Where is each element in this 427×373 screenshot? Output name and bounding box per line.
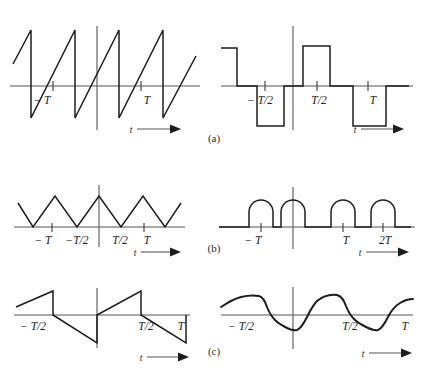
t-arrow-head (170, 248, 181, 257)
ticklabel-minus-T: − T (244, 234, 263, 246)
ticklabel-T: T (402, 320, 410, 332)
axis-label-t: t (362, 349, 365, 359)
ticklabel-T-half: T/2 (112, 234, 128, 246)
ticklabel-T: T (144, 94, 152, 106)
t-arrow-head (398, 248, 409, 257)
ticklabel-T: T (178, 320, 186, 332)
axis-label-t: t (130, 125, 133, 135)
ticklabel-minus-T-half: − T/2 (247, 94, 273, 106)
ticklabel-minus-T-half: − T/2 (228, 320, 254, 332)
axis-label-t: t (140, 353, 143, 363)
ticklabel-minus-T: − T (34, 234, 53, 246)
axis-label-t: t (359, 248, 362, 258)
caption-b: (b) (194, 242, 234, 254)
t-arrow-head (401, 349, 412, 358)
rectified-pulse-train-svg: − T T 2T t (213, 155, 427, 260)
square-wave-svg: − T/2 T/2 T t (213, 8, 427, 138)
t-arrow-head (170, 125, 181, 134)
ticklabel-2T: 2T (379, 234, 393, 246)
smooth-periodic-svg: − T/2 T/2 T t (213, 265, 427, 370)
panel-rectified-pulse-train: − T T 2T t (213, 155, 427, 260)
triangle-wave-svg: − T −T/2 T/2 T t (0, 155, 214, 260)
ramp-sawtooth-svg: − T/2 T/2 T t (0, 265, 214, 370)
caption-a: (a) (194, 132, 234, 144)
ticklabel-T-half: T/2 (311, 94, 327, 106)
panel-square-wave: − T/2 T/2 T t (213, 8, 427, 138)
panel-sawtooth-wave: − T T t (0, 8, 214, 138)
axis-label-t: t (354, 125, 357, 135)
ticklabel-minus-T-half: −T/2 (65, 234, 88, 246)
axis-label-t: t (134, 248, 137, 258)
ticklabel-minus-T-half: − T/2 (20, 320, 46, 332)
ticklabel-minus-T: − T (33, 94, 52, 106)
ramp-sawtooth-trace (16, 291, 186, 343)
ticklabel-T: T (144, 234, 152, 246)
panel-ramp-sawtooth-wave: − T/2 T/2 T t (0, 265, 214, 370)
sawtooth-wave-svg: − T T t (0, 8, 214, 138)
pulse-train-trace (219, 200, 411, 227)
ticklabel-T-half: T/2 (342, 320, 358, 332)
ticklabel-T: T (370, 94, 378, 106)
t-arrow-head (178, 353, 189, 362)
ticklabel-T: T (343, 234, 351, 246)
t-arrow-head (393, 125, 404, 134)
panel-triangle-wave: − T −T/2 T/2 T t (0, 155, 214, 260)
caption-c: (c) (194, 345, 234, 357)
panel-smooth-periodic-wave: − T/2 T/2 T t (213, 265, 427, 370)
waveform-figure: − T T t − T/2 T/2 T t (a) (0, 0, 427, 373)
ticklabel-T-half: T/2 (138, 320, 154, 332)
